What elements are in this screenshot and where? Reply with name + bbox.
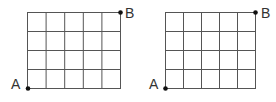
right-grid bbox=[166, 13, 256, 89]
right-point-a-label: A bbox=[149, 76, 159, 92]
left-point-a-dot bbox=[26, 86, 31, 91]
right-point-b-dot bbox=[253, 10, 258, 15]
left-point-b-dot bbox=[118, 10, 123, 15]
left-grid bbox=[28, 13, 121, 89]
right-point-b-label: B bbox=[261, 5, 270, 21]
left-point-b-label: B bbox=[125, 5, 134, 21]
left-point-a-label: A bbox=[11, 76, 21, 92]
grid-diagram: A B A B bbox=[0, 0, 276, 102]
right-point-a-dot bbox=[163, 86, 168, 91]
